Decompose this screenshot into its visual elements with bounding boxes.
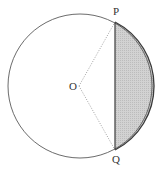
label-o: O: [69, 80, 77, 92]
label-p: P: [113, 5, 119, 17]
label-q: Q: [112, 153, 120, 165]
shaded-segment: [115, 22, 154, 150]
radius-oq: [79, 86, 115, 150]
radius-op: [79, 22, 115, 86]
circle-segment-diagram: O P Q: [0, 0, 159, 174]
